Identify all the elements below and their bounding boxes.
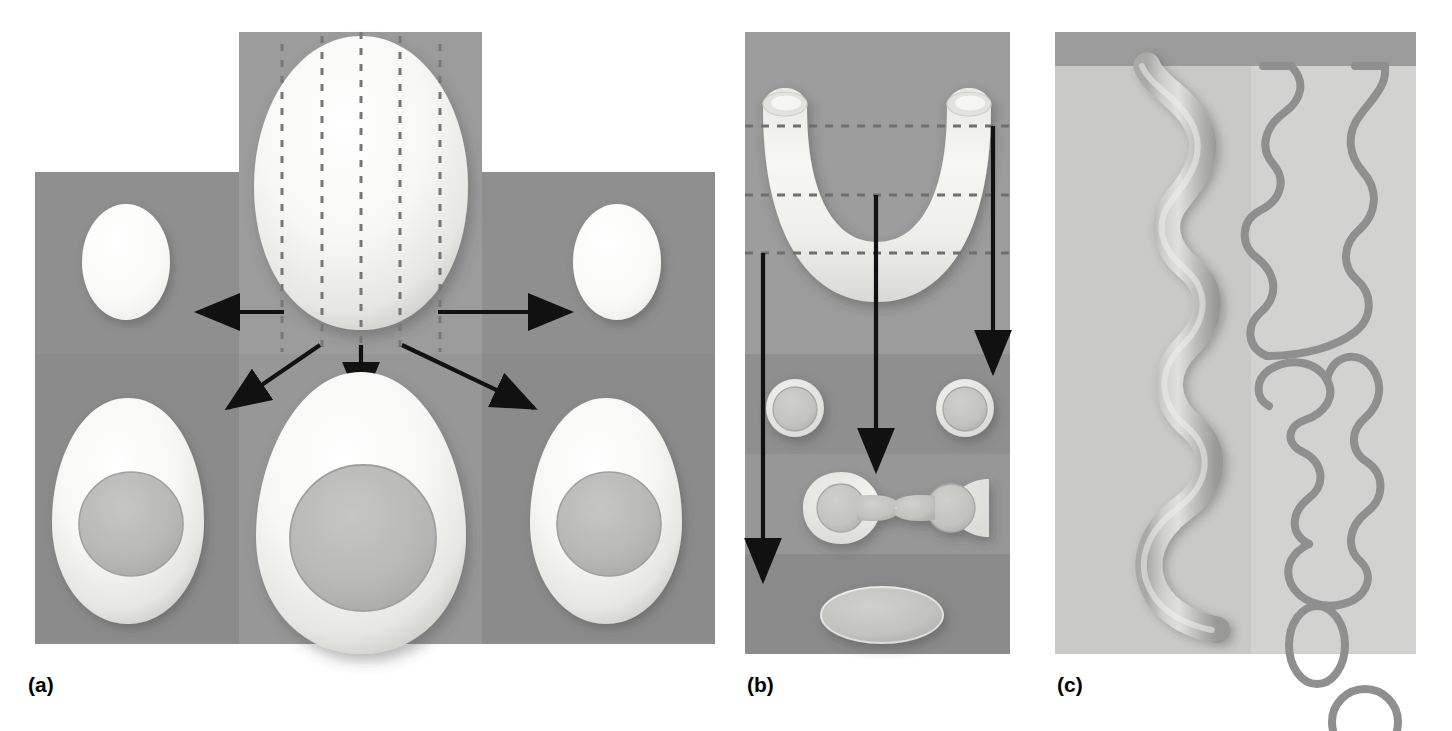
panel-a-graphics [0,0,740,731]
panel-b [745,0,1020,731]
tube-bore-left [771,96,801,111]
figure-canvas: (a) (b) (c) [0,0,1452,731]
yolk-left [79,472,183,576]
panel-b-graphics [745,0,1020,731]
cross-section-b-bottom [820,586,944,644]
yolk-center [290,465,436,611]
cross-section-far-left [82,204,170,320]
panel-a-label: (a) [28,673,54,697]
yolk-right [557,472,661,576]
panel-c-label: (c) [1057,673,1083,697]
cross-section-far-right [573,204,661,320]
panel-a [0,0,740,731]
panel-b-label: (b) [747,673,774,697]
small-circle-contour [1332,689,1398,731]
panel-c [1055,0,1452,731]
tube-bore-right [955,96,985,111]
panel-c-graphics [1055,0,1452,731]
